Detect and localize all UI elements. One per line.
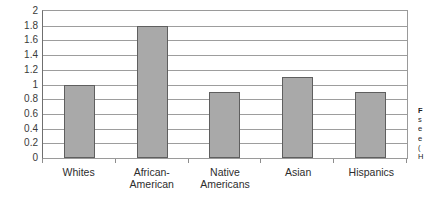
y-tick-label: 1.2 <box>4 65 38 75</box>
x-category-label-line: Americans <box>188 178 261 190</box>
y-axis-tick-labels: 21.81.61.41.210.80.60.40.20 <box>0 10 38 159</box>
y-tick-label: 1 <box>4 80 38 90</box>
caption-line: ( <box>418 143 436 152</box>
bar-slot <box>334 11 407 158</box>
x-category-label-line: Native <box>188 166 261 178</box>
bar[interactable] <box>355 92 386 158</box>
caption-line: s <box>418 115 436 124</box>
x-axis-ticks <box>42 159 408 164</box>
bar-slot <box>116 11 189 158</box>
bar-slot <box>261 11 334 158</box>
y-tick-label: 1.8 <box>4 21 38 31</box>
x-tick <box>42 159 43 163</box>
x-tick <box>115 159 116 163</box>
bar[interactable] <box>282 77 313 158</box>
y-tick-label: 0.6 <box>4 109 38 119</box>
bar-series <box>43 11 407 158</box>
caption-title: F <box>418 106 436 115</box>
bar-slot <box>43 11 116 158</box>
x-category-label: Whites <box>42 166 115 190</box>
bar[interactable] <box>209 92 240 158</box>
x-tick <box>260 159 261 163</box>
x-category-label-line: Asian <box>262 166 335 178</box>
bar[interactable] <box>64 85 95 159</box>
x-tick <box>406 159 407 163</box>
bar-slot <box>189 11 262 158</box>
x-category-label-line: Whites <box>42 166 115 178</box>
y-tick-label: 0.2 <box>4 138 38 148</box>
y-tick-label: 0.4 <box>4 124 38 134</box>
x-axis-category-labels: WhitesAfrican-AmericanNativeAmericansAsi… <box>42 166 408 190</box>
y-tick-label: 0 <box>4 153 38 163</box>
caption-line: e <box>418 134 436 143</box>
x-tick <box>188 159 189 163</box>
y-tick-label: 1.4 <box>4 50 38 60</box>
bar[interactable] <box>137 26 168 158</box>
caption-line: e <box>418 124 436 133</box>
y-tick-label: 0.8 <box>4 94 38 104</box>
x-tick <box>333 159 334 163</box>
x-category-label: Hispanics <box>335 166 408 190</box>
figure: 21.81.61.41.210.80.60.40.20 WhitesAfrica… <box>0 0 436 200</box>
x-category-label-line: Hispanics <box>335 166 408 178</box>
x-category-label: African-American <box>115 166 188 190</box>
figure-caption: F see(H <box>418 106 436 161</box>
x-category-label: Asian <box>262 166 335 190</box>
y-tick-label: 1.6 <box>4 35 38 45</box>
x-category-label-line: African-American <box>115 166 188 190</box>
bar-chart: 21.81.61.41.210.80.60.40.20 WhitesAfrica… <box>0 0 412 200</box>
plot-area <box>42 10 408 159</box>
caption-line: H <box>418 152 436 161</box>
x-category-label: NativeAmericans <box>188 166 261 190</box>
y-tick-label: 2 <box>4 6 38 16</box>
